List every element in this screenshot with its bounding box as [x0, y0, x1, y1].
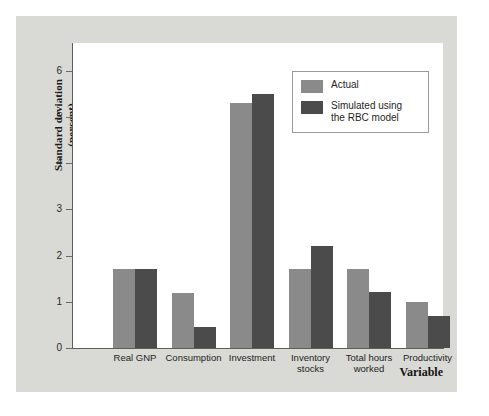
y-axis-tick-label-1: 1: [44, 296, 62, 307]
bar-actual: [172, 293, 194, 348]
y-axis-tick-label-0: 0: [44, 342, 62, 353]
bar-simulated: [194, 327, 216, 348]
bar-actual: [347, 269, 369, 348]
bar-simulated: [311, 246, 333, 348]
x-axis-label-line: Inventory: [291, 352, 330, 363]
x-axis-line: [72, 348, 444, 349]
legend-swatch-actual: [301, 80, 323, 93]
legend-label-actual: Actual: [331, 79, 359, 91]
bar-simulated: [369, 292, 391, 348]
y-axis-tick-label-6: 6: [44, 65, 62, 76]
y-axis-tick-6: [66, 71, 73, 72]
legend-label-simulated: Simulated using the RBC model: [331, 100, 402, 124]
y-axis-tick-1: [66, 302, 73, 303]
legend-item-actual: Actual: [301, 79, 420, 93]
y-axis-tick-3: [66, 209, 73, 210]
bar-actual: [289, 269, 311, 348]
y-axis-tick-4: [66, 163, 73, 164]
x-axis-title: Variable: [399, 365, 443, 380]
x-axis-label-line: worked: [354, 363, 385, 374]
bar-actual: [406, 302, 428, 348]
bar-actual: [230, 103, 252, 348]
x-axis-label-line: Productivity: [403, 352, 452, 363]
bar-group: [113, 43, 157, 348]
y-axis-tick-label-3: 3: [44, 203, 62, 214]
legend-label-simulated-line-2: the RBC model: [331, 112, 399, 123]
legend-item-simulated: Simulated using the RBC model: [301, 100, 420, 124]
legend-label-simulated-line-1: Simulated using: [331, 100, 402, 111]
bar-actual: [113, 269, 135, 348]
y-axis-tick-label-4: 4: [44, 157, 62, 168]
x-axis-label: Productivity: [388, 352, 468, 363]
y-axis-tick-0: [66, 348, 73, 349]
y-axis-tick-label-5: 5: [44, 111, 62, 122]
y-axis-tick-5: [66, 117, 73, 118]
x-axis-label-line: Real GNP: [114, 352, 157, 363]
bar-group: [172, 43, 216, 348]
chart-legend: Actual Simulated using the RBC model: [292, 71, 429, 133]
y-axis-line: [72, 43, 73, 349]
chart-figure-panel: Standard deviation (percent) 0123456 Rea…: [16, 16, 457, 392]
x-axis-label-line: stocks: [297, 363, 324, 374]
bar-simulated: [428, 316, 450, 348]
legend-swatch-simulated: [301, 101, 323, 114]
y-axis-tick-label-2: 2: [44, 250, 62, 261]
bar-group: [230, 43, 274, 348]
x-axis-label-line: Investment: [229, 352, 275, 363]
x-axis-label-line: Total hours: [346, 352, 392, 363]
bar-simulated: [252, 94, 274, 348]
y-axis-tick-2: [66, 256, 73, 257]
bar-simulated: [135, 269, 157, 348]
